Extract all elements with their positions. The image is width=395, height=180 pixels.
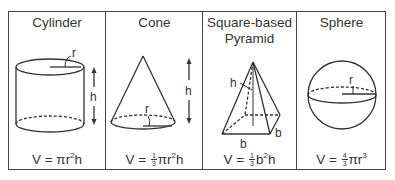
- cylinder-radius-label: r: [72, 46, 76, 60]
- sphere-title: Sphere: [297, 15, 386, 30]
- cylinder-diagram: r h: [5, 40, 115, 140]
- cone-title: Cone: [106, 15, 203, 30]
- sphere-radius-label: r: [349, 73, 353, 87]
- pyramid-base-label-right: b: [275, 126, 282, 140]
- cylinder-title: Cylinder: [9, 15, 105, 30]
- cylinder-height-label: h: [90, 90, 97, 104]
- sphere-diagram: r: [295, 50, 395, 150]
- pyramid-title-line1: Square-based: [203, 15, 296, 30]
- cone-height-label: h: [185, 84, 192, 98]
- cone-formula: V = 13πr2h: [106, 151, 203, 167]
- cone-radius-label: r: [145, 102, 149, 116]
- sphere-formula: V = 43πr3: [297, 151, 386, 167]
- cylinder-formula: V = πr2h: [9, 151, 105, 167]
- pyramid-base-label-bottom: b: [240, 137, 247, 151]
- pyramid-formula: V = 13b2h: [203, 151, 296, 167]
- pyramid-title-line2: Pyramid: [203, 31, 296, 46]
- cone-diagram: r h: [105, 40, 205, 140]
- pyramid-height-label: h: [230, 76, 237, 90]
- pyramid-diagram: h b b: [200, 50, 300, 150]
